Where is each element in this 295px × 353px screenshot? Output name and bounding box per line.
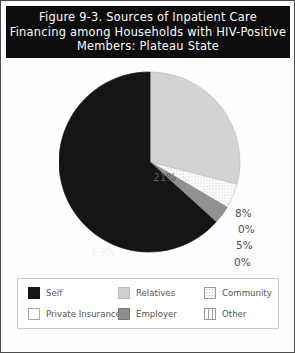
legend-item-other: Other: [204, 308, 290, 320]
chart-legend: Self Relatives Community Private Insuran…: [17, 278, 279, 329]
pie-label-relatives: 21%: [153, 171, 176, 183]
legend-item-private-insurance: Private Insurance: [28, 308, 118, 320]
chart-plot-area: 21% 69% 8% 0% 5% 0%: [1, 59, 294, 271]
legend-swatch-other-icon: [204, 308, 216, 320]
pie-label-other: 0%: [234, 221, 255, 237]
legend-swatch-employer-icon: [118, 308, 130, 320]
pie-label-employer: 5%: [234, 237, 253, 253]
pie-label-community: 8%: [234, 205, 252, 221]
legend-label-employer: Employer: [136, 309, 177, 319]
figure-title-line-1: Figure 9-3. Sources of Inpatient Care: [39, 10, 257, 25]
pie-label-self: 69%: [92, 246, 115, 258]
legend-label-other: Other: [222, 309, 246, 319]
legend-label-self: Self: [46, 288, 62, 298]
legend-item-relatives: Relatives: [118, 287, 204, 299]
legend-swatch-relatives-icon: [118, 287, 130, 299]
legend-label-private-insurance: Private Insurance: [46, 309, 121, 319]
legend-swatch-private-insurance-icon: [28, 308, 40, 320]
figure-container: Figure 9-3. Sources of Inpatient Care Fi…: [0, 0, 295, 353]
pie-chart-svg: [59, 71, 241, 253]
legend-label-community: Community: [222, 288, 272, 298]
figure-title-banner: Figure 9-3. Sources of Inpatient Care Fi…: [6, 6, 290, 58]
pie-outside-labels: 8% 0% 5% 0%: [234, 205, 290, 270]
legend-item-employer: Employer: [118, 308, 204, 320]
legend-swatch-community-icon: [204, 287, 216, 299]
pie-label-private-insurance: 0%: [234, 254, 251, 270]
figure-title-line-3: Members: Plateau State: [77, 39, 219, 54]
legend-item-self: Self: [28, 287, 118, 299]
legend-item-community: Community: [204, 287, 290, 299]
legend-label-relatives: Relatives: [136, 288, 175, 298]
figure-title-line-2: Financing among Households with HIV-Posi…: [10, 25, 287, 40]
legend-swatch-self-icon: [28, 287, 40, 299]
pie-chart: [59, 71, 241, 253]
